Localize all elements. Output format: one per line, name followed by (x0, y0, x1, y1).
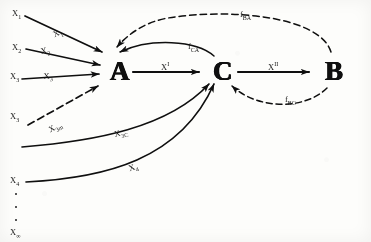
edge-label-x-roman-1: XI (161, 61, 169, 71)
edge-label-fbc: fBC (285, 95, 296, 106)
ellipsis-dot-3 (15, 219, 17, 221)
input-label-x1: X1 (12, 9, 21, 20)
input-label-x3-upper: X3 (10, 72, 19, 83)
edge-x2-to-a (26, 49, 100, 65)
edge-x1-to-a (25, 16, 102, 52)
edge-label-fba: fBA (240, 10, 251, 21)
edge-x3-to-a (22, 74, 99, 79)
edge-fba-b-to-a (117, 14, 331, 52)
node-b: B (325, 58, 343, 85)
edge-label-x3: X3 (43, 71, 53, 82)
input-label-xinf: X∞ (10, 228, 20, 239)
edge-label-fca: fCA (188, 42, 199, 53)
ellipsis-dot-1 (15, 193, 17, 195)
edge-label-x2: X2 (40, 45, 51, 57)
edge-x3m-to-a (28, 86, 98, 125)
input-label-x2: X2 (12, 43, 21, 54)
node-c: C (213, 58, 233, 85)
edge-fbc-b-to-c (232, 86, 327, 104)
input-label-x3-lower: X3 (10, 112, 19, 123)
input-label-x4: X4 (10, 176, 19, 187)
edge-label-x-roman-2: XII (268, 61, 278, 71)
ellipsis-dot-2 (15, 206, 17, 208)
edge-fca-c-to-a (120, 43, 214, 56)
node-a: A (110, 58, 130, 85)
